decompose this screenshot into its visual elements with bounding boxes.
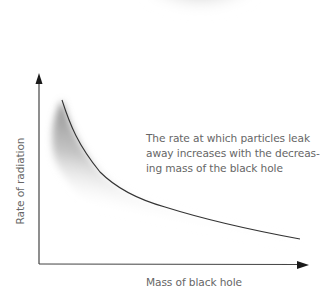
x-axis-arrow-icon [297, 261, 309, 269]
y-axis-label: Rate of radiation [14, 138, 26, 225]
annotation-line-1: The rate at which particles leak [146, 131, 321, 146]
diagram-annotation: The rate at which particles leak away in… [146, 131, 321, 175]
annotation-line-2: away increases with the decreas- [146, 146, 321, 161]
x-axis-label: Mass of black hole [146, 276, 242, 288]
y-axis-arrow-icon [36, 73, 43, 84]
black-hole-radiation-diagram: The rate at which particles leak away in… [0, 0, 321, 306]
top-shading-blob [140, 0, 260, 28]
annotation-line-3: ing mass of the black hole [146, 161, 321, 176]
x-axis [39, 264, 300, 265]
